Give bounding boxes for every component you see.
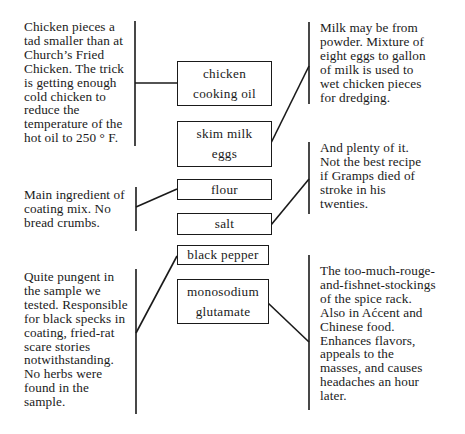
ingredient-line: flour [211, 180, 238, 200]
note-milk-eggs: Milk may be from powder. Mixture of eigh… [320, 21, 426, 104]
ingredient-box-salt: salt [177, 213, 272, 235]
ingredient-line: monosodium [187, 282, 259, 302]
ingredient-box-black-pepper: black pepper [177, 245, 269, 265]
connector-pepper [136, 256, 177, 333]
ingredient-box-milk-eggs: skim milk eggs [177, 121, 272, 167]
ingredient-box-flour: flour [177, 179, 272, 200]
ingredient-line: skim milk [197, 124, 253, 144]
connector-milk [271, 66, 309, 143]
ingredient-line: cooking oil [193, 84, 256, 104]
ingredient-line: salt [215, 214, 235, 234]
ingredient-box-chicken-oil: chicken cooking oil [177, 61, 272, 106]
note-salt: And plenty of it. Not the best recipe if… [320, 141, 421, 211]
connector-salt [271, 179, 309, 225]
ingredient-line: glutamate [196, 302, 251, 322]
ingredient-line: chicken [203, 64, 246, 84]
note-flour: Main ingredient of coating mix. No bread… [24, 188, 125, 230]
note-chicken-oil: Chicken pieces a tad smaller than at Chu… [24, 20, 124, 145]
connector-msg [268, 303, 309, 342]
connector-flour [136, 189, 177, 207]
ingredient-line: black pepper [187, 245, 258, 265]
note-msg: The too-much-rouge- and-fishnet-stocking… [320, 264, 436, 403]
ingredient-line: eggs [212, 144, 237, 164]
note-black-pepper: Quite pungent in the sample we tested. R… [24, 270, 128, 409]
ingredient-box-msg: monosodium glutamate [177, 279, 269, 324]
